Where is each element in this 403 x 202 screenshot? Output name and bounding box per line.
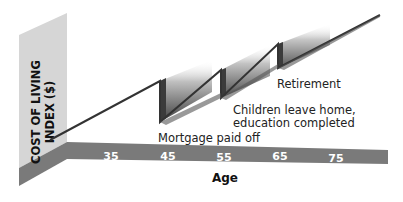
y-axis-title-line2: INDEX ($) [43, 81, 57, 144]
annotation-children-line2: education completed [233, 116, 355, 130]
tick-65: 65 [272, 150, 287, 163]
tick-55: 55 [216, 151, 231, 164]
annotation-mortgage: Mortgage paid off [158, 131, 261, 145]
annotation-children-line1: Children leave home, [233, 103, 356, 117]
tick-45: 45 [160, 150, 175, 163]
x-axis-title: Age [212, 171, 238, 185]
y-axis-title-line1: COST OF LIVING [29, 60, 43, 164]
tick-75: 75 [328, 152, 343, 165]
cost-of-living-diagram: COST OF LIVING INDEX ($) 35 45 55 65 75 … [0, 0, 403, 202]
annotation-retirement: Retirement [277, 77, 341, 91]
tick-35: 35 [103, 150, 118, 163]
